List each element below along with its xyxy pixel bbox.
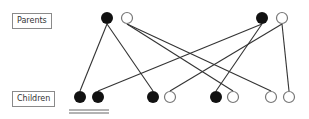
link-p2a-c2 <box>98 24 262 91</box>
child-node-affected <box>147 91 159 103</box>
link-p2b-c8 <box>282 24 289 91</box>
parent-node-affected <box>256 12 268 24</box>
child-node-affected <box>74 91 86 103</box>
child-node-affected <box>210 91 222 103</box>
link-p1a-c3 <box>107 24 153 91</box>
link-p2a-c5 <box>216 24 262 91</box>
child-node-unaffected <box>165 92 176 103</box>
underline-layer <box>69 110 109 113</box>
parent-node-unaffected <box>277 13 288 24</box>
link-p2b-c4 <box>170 24 282 91</box>
links-layer <box>80 24 289 91</box>
child-node-unaffected <box>228 92 239 103</box>
child-node-unaffected <box>266 92 277 103</box>
link-p1a-c1 <box>80 24 107 91</box>
parent-node-unaffected <box>122 13 133 24</box>
child-node-affected <box>92 91 104 103</box>
child-node-unaffected <box>284 92 295 103</box>
link-p1b-c7 <box>127 24 271 91</box>
pedigree-diagram <box>0 0 309 119</box>
parent-node-affected <box>101 12 113 24</box>
